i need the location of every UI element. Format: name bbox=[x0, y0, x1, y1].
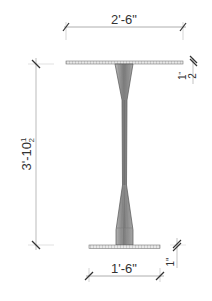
top-thickness-dimension: 1" 2 bbox=[177, 56, 198, 84]
tabletop bbox=[66, 61, 183, 64]
top-thickness-denominator: 2 bbox=[187, 73, 198, 79]
base-width-dimension: 1'-6" bbox=[85, 261, 164, 282]
pedestal-stem bbox=[115, 64, 133, 245]
height-label: 3'-1012 bbox=[19, 137, 36, 171]
top-width-label: 2'-6" bbox=[111, 12, 137, 27]
base-width-label: 1'-6" bbox=[111, 261, 137, 276]
base-thickness-label: 1" bbox=[165, 257, 176, 267]
base-thickness-dimension: 1" bbox=[165, 238, 186, 268]
height-dimension: 3'-1012 bbox=[19, 58, 54, 250]
base-plate bbox=[89, 245, 160, 249]
table-elevation-drawing: 2'-6" 3'-1012 bbox=[0, 0, 212, 301]
top-width-dimension: 2'-6" bbox=[63, 12, 186, 40]
